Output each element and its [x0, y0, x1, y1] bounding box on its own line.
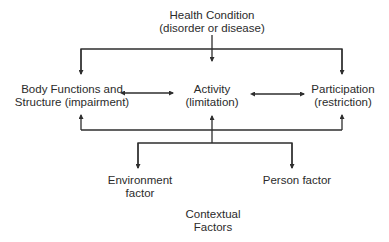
contextual-title: Contextual	[186, 208, 241, 221]
health-condition-title: Health Condition	[159, 9, 264, 22]
diagram-connectors	[0, 0, 389, 242]
node-health-condition: Health Condition (disorder or disease)	[159, 9, 264, 35]
body-functions-title: Body Functions and	[15, 83, 129, 96]
contextual-branch-line	[138, 143, 292, 168]
node-activity: Activity (limitation)	[185, 83, 238, 109]
activity-title: Activity	[185, 83, 238, 96]
body-functions-subtitle: Structure (impairment)	[15, 96, 129, 109]
activity-subtitle: (limitation)	[185, 96, 238, 109]
person-title: Person factor	[263, 174, 331, 187]
participation-subtitle: (restriction)	[311, 96, 374, 109]
environment-title: Environment	[108, 174, 173, 187]
environment-subtitle: factor	[108, 187, 173, 200]
node-body-functions: Body Functions and Structure (impairment…	[15, 83, 129, 109]
participation-title: Participation	[311, 83, 374, 96]
node-participation: Participation (restriction)	[311, 83, 374, 109]
health-condition-subtitle: (disorder or disease)	[159, 22, 264, 35]
node-environment-factor: Environment factor	[108, 174, 173, 200]
node-contextual-factors: Contextual Factors	[186, 208, 241, 234]
node-person-factor: Person factor	[263, 174, 331, 187]
contextual-subtitle: Factors	[186, 221, 241, 234]
